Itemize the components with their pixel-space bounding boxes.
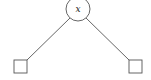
left-leaf-square bbox=[14, 60, 27, 73]
tree-diagram: x bbox=[0, 0, 151, 80]
root-node: x bbox=[66, 0, 90, 21]
edge-root-right bbox=[86, 18, 129, 60]
root-label: x bbox=[75, 4, 80, 14]
right-leaf-square bbox=[129, 60, 142, 73]
edge-root-left bbox=[27, 18, 70, 60]
